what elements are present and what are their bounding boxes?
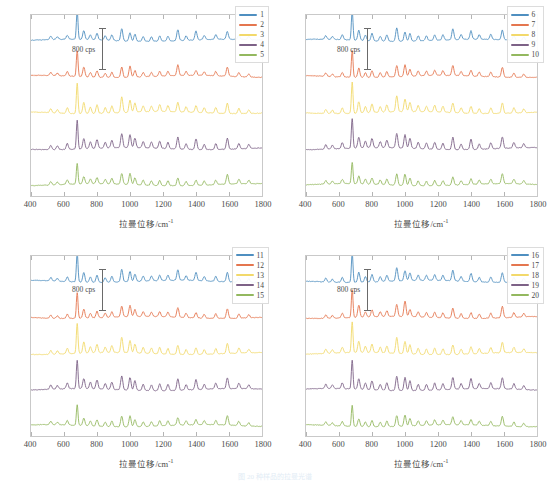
x-tick-label: 1600 [496, 199, 513, 209]
x-axis-title-exponent: -1 [168, 217, 173, 224]
x-tick-mark [64, 432, 65, 436]
legend-item[interactable]: 9 [511, 40, 540, 49]
x-tick-mark [405, 192, 406, 196]
x-tick-label: 800 [90, 439, 103, 449]
x-tick-label: 1400 [188, 199, 205, 209]
x-tick-mark [339, 192, 340, 196]
x-axis-title: 拉曼位移/cm-1 [30, 217, 263, 229]
spectrum-trace [31, 83, 262, 114]
legend-item[interactable]: 20 [511, 291, 540, 300]
legend: 12345 [235, 6, 269, 63]
legend-item[interactable]: 1 [239, 10, 264, 19]
x-tick-mark-top [471, 256, 472, 260]
legend-label: 12 [257, 261, 265, 270]
spectrum-trace [306, 360, 537, 390]
x-tick-mark [64, 192, 65, 196]
scale-bar-glyph [99, 28, 106, 70]
legend-item[interactable]: 17 [511, 261, 540, 270]
spectrum-trace [31, 51, 262, 78]
x-tick-mark-top [196, 256, 197, 260]
legend-item[interactable]: 4 [239, 40, 264, 49]
spectra-traces [31, 15, 262, 196]
x-tick-mark [163, 192, 164, 196]
x-tick-labels: 40060080010001200140016001800 [305, 199, 538, 213]
legend-color-swatch [511, 294, 529, 296]
spectrum-trace [306, 119, 537, 150]
x-tick-label: 1400 [463, 199, 480, 209]
legend: 1617181920 [507, 247, 545, 304]
legend-item[interactable]: 8 [511, 30, 540, 39]
legend-item[interactable]: 14 [236, 281, 265, 290]
x-tick-label: 1200 [155, 199, 172, 209]
spectrum-trace [306, 321, 537, 354]
legend-color-swatch [511, 274, 529, 276]
x-tick-label: 1600 [496, 439, 513, 449]
scale-bar-label: 800 cps [337, 285, 360, 294]
legend-item[interactable]: 18 [511, 271, 540, 280]
legend-label: 18 [532, 271, 540, 280]
x-tick-mark-top [130, 15, 131, 19]
x-tick-mark [339, 432, 340, 436]
legend: 1112131415 [232, 247, 270, 304]
x-tick-mark-top [64, 15, 65, 19]
legend-label: 6 [532, 10, 536, 19]
legend-item[interactable]: 3 [239, 30, 264, 39]
x-axis-title-exponent: -1 [443, 457, 448, 464]
legend-item[interactable]: 7 [511, 20, 540, 29]
panel-bottom-right: 800 cps 1617181920 400600800100012001400… [275, 241, 550, 481]
x-tick-mark [537, 192, 538, 196]
legend-item[interactable]: 2 [239, 20, 264, 29]
scale-bar-label: 800 cps [72, 45, 95, 54]
x-tick-mark-top [339, 15, 340, 19]
legend-label: 5 [260, 50, 264, 59]
x-tick-label: 1200 [430, 439, 447, 449]
legend: 678910 [507, 6, 545, 63]
legend-item[interactable]: 15 [236, 291, 265, 300]
x-tick-mark-top [372, 15, 373, 19]
x-tick-label: 1200 [155, 439, 172, 449]
x-tick-mark-top [97, 256, 98, 260]
x-tick-label: 1600 [221, 199, 238, 209]
legend-color-swatch [239, 24, 257, 26]
scale-bar: 800 cps [337, 28, 371, 70]
x-tick-label: 1800 [255, 199, 272, 209]
x-tick-label: 800 [365, 199, 378, 209]
legend-item[interactable]: 12 [236, 261, 265, 270]
x-tick-mark [372, 432, 373, 436]
legend-item[interactable]: 16 [511, 251, 540, 260]
x-tick-mark [537, 432, 538, 436]
legend-label: 10 [532, 50, 540, 59]
x-tick-mark [438, 192, 439, 196]
legend-item[interactable]: 13 [236, 271, 265, 280]
x-tick-mark [31, 432, 32, 436]
legend-item[interactable]: 11 [236, 251, 265, 260]
x-tick-mark-top [438, 256, 439, 260]
scale-bar: 800 cps [72, 28, 106, 70]
legend-color-swatch [236, 294, 254, 296]
x-tick-label: 1000 [121, 199, 138, 209]
legend-item[interactable]: 5 [239, 50, 264, 59]
x-tick-labels: 40060080010001200140016001800 [305, 439, 538, 453]
x-tick-mark-top [405, 15, 406, 19]
x-tick-mark [504, 192, 505, 196]
legend-item[interactable]: 6 [511, 10, 540, 19]
legend-color-swatch [236, 264, 254, 266]
x-tick-mark-top [438, 15, 439, 19]
legend-item[interactable]: 10 [511, 50, 540, 59]
figure-caption: 图 20 种样品的拉曼光谱 [0, 468, 550, 481]
x-tick-mark [372, 192, 373, 196]
x-tick-mark-top [31, 15, 32, 19]
legend-color-swatch [511, 264, 529, 266]
x-tick-label: 1000 [396, 199, 413, 209]
x-axis-title-text: 拉曼位移/cm [394, 219, 443, 229]
x-tick-mark [130, 432, 131, 436]
scale-bar-label: 800 cps [337, 45, 360, 54]
x-tick-label: 600 [332, 199, 345, 209]
legend-item[interactable]: 19 [511, 281, 540, 290]
x-tick-mark [97, 432, 98, 436]
x-tick-label: 1800 [530, 439, 547, 449]
legend-label: 2 [260, 20, 264, 29]
spectrum-trace [306, 162, 537, 185]
legend-color-swatch [236, 274, 254, 276]
x-tick-mark-top [471, 15, 472, 19]
